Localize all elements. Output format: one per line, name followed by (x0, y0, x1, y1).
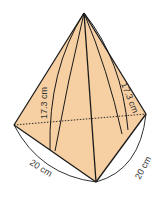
label-bottom-left: 20 cm (28, 157, 54, 178)
label-left-slant: 17.3 cm (39, 87, 49, 119)
label-bottom-right: 20 cm (133, 155, 153, 181)
pyramid-diagram: 17.3 cm 17.3 cm 20 cm 20 cm (0, 0, 164, 198)
